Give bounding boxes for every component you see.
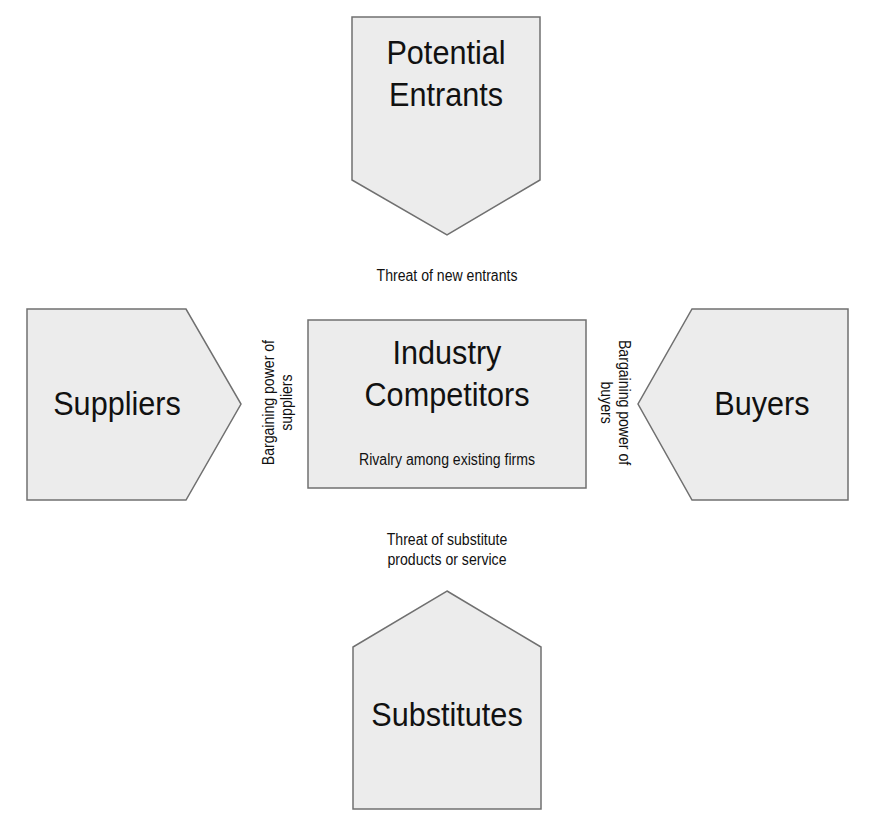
bargaining-power-buyers-line2: buyers: [597, 332, 615, 473]
industry-line1: Industry: [322, 335, 572, 371]
bargaining-power-suppliers-label: Bargaining power of suppliers: [260, 332, 295, 473]
buyers-label: Buyers: [681, 386, 843, 422]
bargaining-power-buyers-line1: Bargaining power of: [615, 332, 633, 473]
threat-substitutes-line2: products or service: [359, 550, 535, 570]
suppliers-label: Suppliers: [36, 386, 198, 422]
bargaining-power-suppliers-line2: suppliers: [278, 332, 296, 473]
threat-substitutes-label: Threat of substitute products or service: [359, 530, 535, 570]
substitutes-label: Substitutes: [362, 697, 531, 733]
industry-competitors-label: Industry Competitors: [322, 335, 572, 412]
threat-new-entrants-label: Threat of new entrants: [359, 268, 535, 285]
potential-entrants-label: Potential Entrants: [361, 35, 530, 112]
bargaining-power-buyers-label: Bargaining power of buyers: [597, 332, 632, 473]
potential-entrants-line1: Potential: [361, 35, 530, 71]
industry-line2: Competitors: [322, 377, 572, 413]
threat-substitutes-line1: Threat of substitute: [359, 530, 535, 550]
bargaining-power-suppliers-line1: Bargaining power of: [260, 332, 278, 473]
potential-entrants-line2: Entrants: [361, 77, 530, 113]
rivalry-label: Rivalry among existing firms: [325, 452, 570, 469]
